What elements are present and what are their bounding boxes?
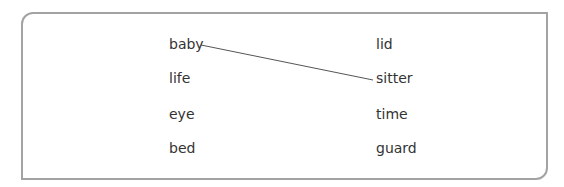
left-word-life[interactable]: life xyxy=(169,70,190,86)
connection-lines xyxy=(0,0,564,187)
right-word-sitter[interactable]: sitter xyxy=(376,70,413,86)
right-word-time[interactable]: time xyxy=(376,106,408,122)
left-word-bed[interactable]: bed xyxy=(169,140,195,156)
right-word-guard[interactable]: guard xyxy=(376,140,417,156)
connection-line-baby-sitter xyxy=(201,45,373,80)
right-word-lid[interactable]: lid xyxy=(376,36,393,52)
left-word-baby[interactable]: baby xyxy=(169,36,204,52)
left-word-eye[interactable]: eye xyxy=(169,106,195,122)
